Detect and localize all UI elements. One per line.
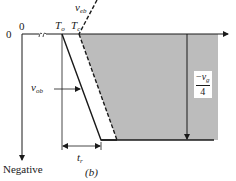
v-eb-sub: eb — [80, 7, 87, 15]
t-o-label: To — [55, 20, 65, 33]
amplitude-label: −vg 4 — [194, 71, 212, 98]
amplitude-denominator: 4 — [200, 86, 205, 97]
t-o-sub: o — [61, 25, 65, 33]
v-eb-label: veb — [75, 2, 87, 15]
figure-caption: (b) — [85, 167, 98, 178]
origin-label-top: 0 — [19, 21, 25, 32]
origin-label-left: 0 — [6, 29, 12, 40]
t-c-label: Tc — [71, 20, 80, 33]
v-ob-sub: ob — [36, 87, 43, 95]
t-r-sub: r — [80, 157, 83, 165]
t-r-label: tr — [77, 152, 83, 165]
t-c-sub: c — [77, 25, 80, 33]
amplitude-numerator: −vg — [196, 71, 210, 82]
v-ob-label: vob — [31, 82, 43, 95]
y-axis-label: Negative — [3, 164, 43, 175]
